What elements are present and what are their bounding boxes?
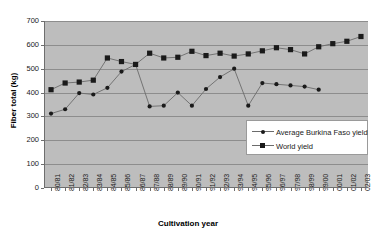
data-point [260, 81, 264, 85]
legend-item-world-yield[interactable]: World yield [252, 139, 362, 153]
data-point [218, 75, 222, 79]
data-point [119, 59, 124, 64]
legend-item-burkina-faso[interactable]: Average Burkina Faso yield [252, 125, 362, 139]
data-point [63, 80, 68, 85]
data-point [189, 49, 194, 54]
data-point [91, 92, 95, 96]
data-point [303, 85, 307, 89]
data-point [217, 51, 222, 56]
data-point [246, 104, 250, 108]
data-point [232, 67, 236, 71]
data-point [105, 55, 110, 60]
data-point [358, 34, 363, 39]
data-point [260, 48, 265, 53]
data-point [344, 39, 349, 44]
data-point [203, 53, 208, 58]
data-point [190, 104, 194, 108]
data-point [204, 87, 208, 91]
data-point [105, 86, 109, 90]
data-point [175, 55, 180, 60]
series-world-yield [48, 34, 363, 92]
data-point [317, 88, 321, 92]
data-point [63, 107, 67, 111]
legend-marker-square-icon [252, 141, 274, 151]
data-point [162, 104, 166, 108]
data-point [49, 111, 53, 115]
legend-label-burkina-faso: Average Burkina Faso yield [274, 128, 368, 137]
data-point [176, 90, 180, 94]
data-point [119, 69, 123, 73]
data-point [274, 45, 279, 50]
data-point [48, 87, 53, 92]
data-point [133, 62, 138, 67]
data-point [91, 78, 96, 83]
series-burkina-faso [49, 62, 321, 115]
legend-label-world-yield: World yield [274, 142, 313, 151]
data-point [316, 44, 321, 49]
data-point [246, 51, 251, 56]
series-line [51, 37, 361, 90]
data-point [330, 41, 335, 46]
legend-marker-circle-icon [252, 127, 274, 137]
data-point [302, 51, 307, 56]
data-point [77, 79, 82, 84]
data-point [161, 55, 166, 60]
data-point [147, 51, 152, 56]
data-series-layer [0, 0, 376, 234]
data-point [288, 47, 293, 52]
data-point [232, 53, 237, 58]
data-point [148, 104, 152, 108]
chart-container: 0100200300400500600700 Fiber total (kg) … [0, 0, 376, 234]
data-point [77, 91, 81, 95]
series-line [51, 64, 319, 113]
data-point [288, 83, 292, 87]
data-point [274, 82, 278, 86]
legend: Average Burkina Faso yield World yield [246, 120, 368, 155]
